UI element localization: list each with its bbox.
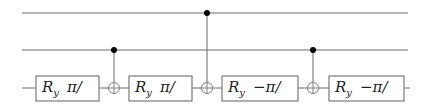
gate-name: R [42, 78, 53, 96]
gate-name: R [135, 78, 146, 96]
control-dot-icon [204, 10, 210, 16]
cnot-gate-2 [202, 10, 213, 94]
gate-name: R [335, 78, 346, 96]
gate-subscript: y [239, 87, 245, 98]
gate-name: R [228, 78, 239, 96]
control-dot-icon [111, 47, 117, 53]
cnot-gate-1 [109, 47, 120, 94]
control-dot-icon [310, 47, 316, 53]
ry-gate-label-4: Ry−π/ [335, 80, 387, 98]
gate-argument: π/ [67, 78, 82, 96]
gate-argument: π/ [160, 78, 175, 96]
gate-subscript: y [53, 87, 59, 98]
gate-subscript: y [346, 87, 352, 98]
gate-subscript: y [146, 87, 152, 98]
gate-argument: −π/ [360, 78, 387, 96]
ry-gate-label-1: Ryπ/ [42, 80, 82, 98]
gate-argument: −π/ [253, 78, 280, 96]
ry-gate-label-3: Ry−π/ [228, 80, 280, 98]
cnot-gate-3 [308, 47, 319, 94]
ry-gate-label-2: Ryπ/ [135, 80, 175, 98]
